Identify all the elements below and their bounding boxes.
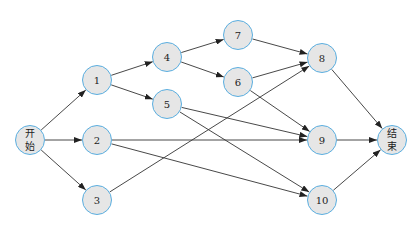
edge-start-to-1 [41,90,86,130]
edge-10-to-end [333,150,380,190]
node-9-label: 9 [319,135,325,146]
edges-layer [0,0,420,230]
node-5: 5 [152,89,182,119]
node-start: 开 始 [15,125,45,155]
edge-4-to-7 [181,39,223,52]
node-6-label: 6 [235,77,241,88]
edge-7-to-8 [252,39,307,54]
node-10: 10 [307,185,337,215]
edge-5-to-9 [182,107,308,136]
node-3: 3 [82,185,112,215]
node-8-label: 8 [319,53,325,64]
node-end: 结 束 [377,125,407,155]
edge-1-to-5 [111,85,153,99]
node-7: 7 [223,20,253,50]
node-9: 9 [307,125,337,155]
edge-2-to-10 [111,144,307,196]
node-6: 6 [223,67,253,97]
node-start-label-top: 开 [25,127,35,140]
node-1-label: 1 [94,75,100,86]
edge-6-to-8 [252,62,307,78]
node-1: 1 [82,65,112,95]
edge-4-to-6 [181,62,224,77]
node-end-label-bottom: 束 [387,140,397,153]
node-4: 4 [152,42,182,72]
network-diagram: 开 始 1 2 3 4 5 7 6 8 9 10 结 束 [0,0,420,230]
node-start-label-bottom: 始 [25,140,35,153]
node-2-label: 2 [94,135,100,146]
edge-5-to-10 [180,112,309,192]
node-3-label: 3 [94,195,100,206]
node-end-label-top: 结 [387,127,397,140]
edge-start-to-3 [41,150,86,190]
node-4-label: 4 [164,52,170,63]
edge-1-to-4 [111,62,152,76]
edge-8-to-end [332,69,383,128]
node-2: 2 [82,125,112,155]
node-8: 8 [307,43,337,73]
node-10-label: 10 [316,195,329,206]
node-5-label: 5 [164,99,170,110]
node-7-label: 7 [235,30,241,41]
